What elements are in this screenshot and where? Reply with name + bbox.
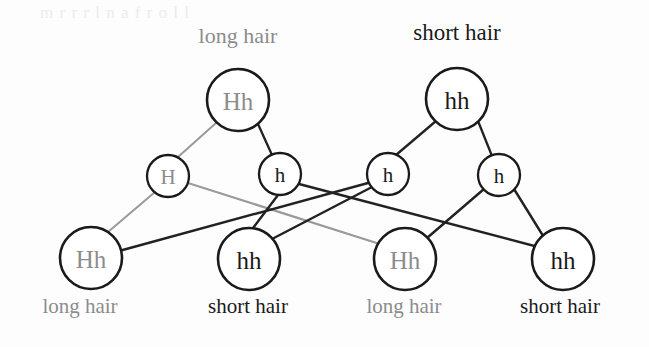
gamete-H-allele: H bbox=[160, 165, 175, 189]
offspring-2-genotype: hh bbox=[237, 247, 263, 274]
offspring-1-genotype: Hh bbox=[76, 246, 107, 273]
offspring-3-genotype: Hh bbox=[390, 247, 421, 274]
offspring-1-phenotype-label: long hair bbox=[42, 294, 117, 318]
edge-gamete-H-to-offspring-1 bbox=[108, 192, 155, 232]
parent-right-genotype: hh bbox=[445, 87, 471, 114]
parent-left-phenotype-label: long hair bbox=[199, 23, 278, 48]
gamete-node-h-2[interactable]: h bbox=[367, 153, 409, 195]
offspring-4-genotype: hh bbox=[551, 247, 577, 274]
parent-left-genotype: Hh bbox=[223, 88, 254, 115]
edge-gamete-h-3-to-offspring-4 bbox=[514, 189, 545, 239]
offspring-4-phenotype-label: short hair bbox=[520, 294, 600, 318]
parent-right-phenotype-label: short hair bbox=[413, 20, 501, 45]
parent-node-right[interactable]: hh bbox=[426, 68, 488, 130]
offspring-3-phenotype-label: long hair bbox=[366, 294, 441, 318]
offspring-2-phenotype-label: short hair bbox=[208, 294, 288, 318]
edge-parent-left-to-gamete-h-1 bbox=[258, 124, 272, 155]
offspring-node-4[interactable]: hh bbox=[532, 228, 594, 290]
edge-parent-right-to-gamete-h-3 bbox=[478, 121, 492, 156]
gamete-h-3-allele: h bbox=[494, 164, 505, 188]
gamete-node-H[interactable]: H bbox=[147, 155, 189, 197]
inheritance-diagram: m r r r l n a f r o l l long hair short … bbox=[0, 0, 649, 347]
offspring-node-1[interactable]: Hh bbox=[60, 227, 122, 289]
bleed-through-text: m r r r l n a f r o l l bbox=[40, 3, 190, 22]
gamete-node-h-3[interactable]: h bbox=[478, 154, 520, 196]
edge-parent-right-to-gamete-h-2 bbox=[396, 121, 436, 155]
gamete-node-h-1[interactable]: h bbox=[259, 153, 301, 195]
offspring-node-2[interactable]: hh bbox=[218, 228, 280, 290]
edge-parent-left-to-gamete-H bbox=[178, 123, 216, 157]
offspring-node-3[interactable]: Hh bbox=[374, 228, 436, 290]
gamete-h-2-allele: h bbox=[383, 163, 394, 187]
gamete-h-1-allele: h bbox=[275, 163, 286, 187]
parent-node-left[interactable]: Hh bbox=[207, 69, 269, 131]
punnett-diagram-canvas: m r r r l n a f r o l l long hair short … bbox=[0, 0, 649, 347]
